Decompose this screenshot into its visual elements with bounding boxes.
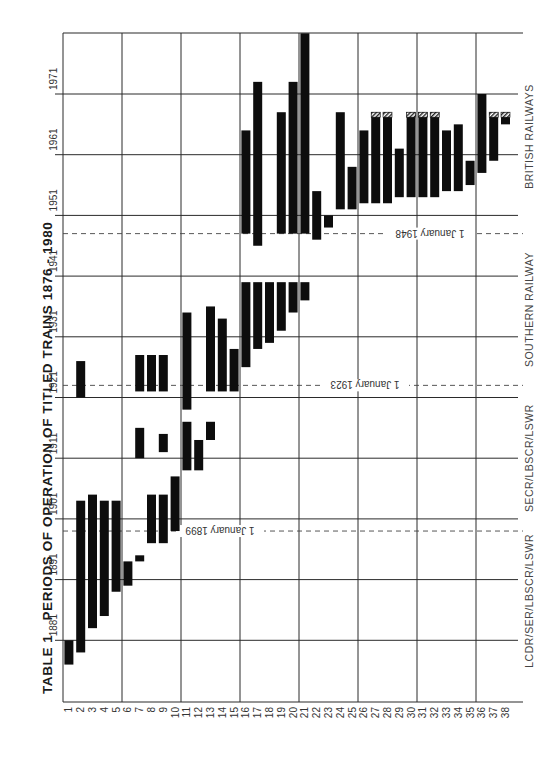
- era-label: BRITISH RAILWAYS: [523, 84, 535, 189]
- year-tick-label: 1891: [48, 553, 59, 576]
- train-number-label: 15: [229, 707, 240, 719]
- hatched-end-marker: [371, 112, 380, 117]
- train-number-label: 3: [87, 707, 98, 713]
- train-period-bar: [76, 501, 85, 653]
- train-number-label: 29: [394, 707, 405, 719]
- train-period-bar: [371, 112, 380, 203]
- bars: [64, 33, 510, 664]
- train-number-label: 24: [335, 707, 346, 719]
- train-period-bar: [418, 112, 427, 197]
- train-period-bar: [277, 112, 286, 233]
- train-period-bar: [312, 191, 321, 240]
- train-number-label: 13: [205, 707, 216, 719]
- train-period-bar: [147, 495, 156, 544]
- train-number-label: 25: [347, 707, 358, 719]
- train-period-bar: [489, 112, 498, 161]
- train-number-label: 18: [264, 707, 275, 719]
- train-period-bar: [336, 112, 345, 209]
- train-period-bar: [324, 215, 333, 227]
- train-period-bar: [289, 282, 298, 312]
- train-period-bar: [253, 282, 262, 349]
- train-period-bar: [454, 124, 463, 191]
- train-number-label: 8: [146, 707, 157, 713]
- train-period-bar: [123, 561, 132, 585]
- train-number-label: 28: [382, 707, 393, 719]
- train-number-label: 9: [158, 707, 169, 713]
- year-tick-label: 1931: [48, 310, 59, 333]
- train-period-bar: [112, 501, 121, 592]
- train-period-bar: [241, 130, 250, 233]
- train-period-bar: [147, 355, 156, 391]
- era-label: SECR/LBSCR/LSWR: [523, 404, 535, 512]
- train-number-label: 37: [488, 707, 499, 719]
- train-period-bar: [407, 112, 416, 197]
- train-period-bar: [241, 282, 250, 367]
- annotation-lines: 1 January 18991 January 19231 January 19…: [63, 228, 523, 537]
- train-number-label: 4: [99, 707, 110, 713]
- train-period-bar: [265, 282, 274, 343]
- train-period-bar: [88, 495, 97, 629]
- train-number-label: 11: [181, 707, 192, 718]
- train-period-bar: [100, 501, 109, 616]
- train-period-bar: [383, 112, 392, 203]
- train-number-label: 5: [111, 707, 122, 713]
- train-number-label: 14: [217, 707, 228, 719]
- train-period-bar: [277, 282, 286, 331]
- train-number-label: 6: [122, 707, 133, 713]
- era-label: SOUTHERN RAILWAY: [523, 252, 535, 367]
- train-number-label: 38: [500, 707, 511, 719]
- hatched-end-marker: [407, 112, 416, 117]
- train-period-bar: [230, 349, 239, 391]
- train-period-bar: [135, 555, 144, 561]
- train-number-label: 16: [240, 707, 251, 719]
- train-period-bar: [159, 495, 168, 544]
- train-number-label: 17: [252, 707, 263, 719]
- year-tick-label: 1971: [48, 67, 59, 90]
- train-number-label: 10: [170, 707, 181, 719]
- train-period-bar: [289, 82, 298, 234]
- annotation-label: 1 January 1923: [330, 379, 399, 390]
- train-period-bar: [206, 422, 215, 440]
- year-tick-label: 1961: [48, 128, 59, 151]
- train-number-label: 31: [417, 707, 428, 719]
- train-period-bar: [182, 313, 191, 410]
- train-number-label: 32: [429, 707, 440, 719]
- hatched-end-marker: [489, 112, 498, 117]
- train-number-label: 30: [406, 707, 417, 719]
- titled-trains-chart: 1 January 18991 January 19231 January 19…: [0, 0, 547, 769]
- year-tick-label: 1901: [48, 492, 59, 515]
- train-number-label: 23: [323, 707, 334, 719]
- hatched-end-marker: [501, 112, 510, 117]
- train-number-label: 19: [276, 707, 287, 719]
- train-number-label: 12: [193, 707, 204, 719]
- year-tick-label: 1921: [48, 371, 59, 394]
- hatched-end-marker: [430, 112, 439, 117]
- train-number-label: 2: [75, 707, 86, 713]
- train-period-bar: [300, 282, 309, 300]
- train-number-label: 22: [311, 707, 322, 719]
- train-period-bar: [442, 130, 451, 191]
- train-number-label: 27: [370, 707, 381, 719]
- train-period-bar: [159, 434, 168, 452]
- train-period-bar: [182, 422, 191, 471]
- train-number-label: 26: [358, 707, 369, 719]
- annotation-label: 1 January 1899: [185, 525, 254, 536]
- train-period-bar: [206, 306, 215, 391]
- train-number-label: 34: [453, 707, 464, 719]
- train-period-bar: [300, 33, 309, 233]
- year-tick-label: 1951: [48, 189, 59, 212]
- year-tick-label: 1941: [48, 249, 59, 272]
- train-number-label: 7: [134, 707, 145, 713]
- hatched-end-marker: [418, 112, 427, 117]
- train-period-bar: [430, 112, 439, 197]
- train-period-bar: [159, 355, 168, 391]
- train-number-label: 36: [476, 707, 487, 719]
- era-label: LCDR/SER/LBSCR/LSWR: [523, 534, 535, 668]
- train-number-label: 35: [465, 707, 476, 719]
- year-tick-label: 1881: [48, 614, 59, 637]
- train-number-label: 33: [441, 707, 452, 719]
- train-period-bar: [171, 476, 180, 531]
- train-period-bar: [348, 167, 357, 209]
- train-period-bar: [76, 361, 85, 397]
- train-period-bar: [477, 94, 486, 173]
